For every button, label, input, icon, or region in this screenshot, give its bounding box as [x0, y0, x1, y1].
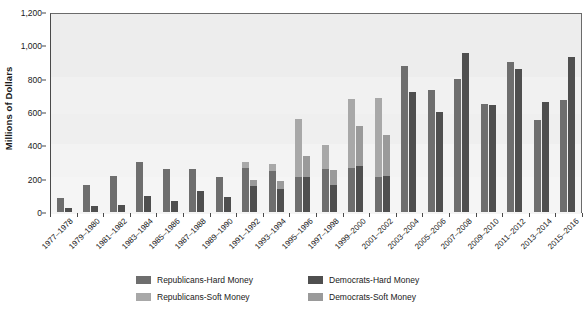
y-axis-tick-mark — [42, 46, 46, 47]
bar-group — [528, 14, 555, 212]
y-axis-tick-labels: 02004006008001,0001,200 — [16, 0, 46, 220]
bar-republicans — [534, 120, 541, 212]
bar-democrats — [250, 180, 257, 212]
bar-group — [290, 14, 317, 212]
bar-group — [343, 14, 370, 212]
bar-segment-republicans-hard-money — [83, 185, 90, 213]
bar-segment-republicans-soft-money — [375, 98, 382, 177]
bar-democrats — [277, 181, 284, 212]
bar-group — [396, 14, 423, 212]
legend-swatch — [308, 276, 323, 284]
legend-label: Republicans-Hard Money — [157, 275, 253, 285]
bar-democrats — [383, 135, 390, 212]
bar-democrats — [409, 92, 416, 212]
bar-segment-democrats-hard-money — [303, 177, 310, 212]
bar-segment-republicans-hard-money — [322, 169, 329, 212]
bar-republicans — [163, 169, 170, 212]
bar-segment-republicans-hard-money — [57, 198, 64, 212]
bar-republicans — [507, 62, 514, 212]
y-axis-tick-label: 200 — [28, 175, 42, 185]
bar-segment-democrats-hard-money — [409, 92, 416, 212]
bar-segment-republicans-soft-money — [348, 99, 355, 167]
bar-group — [237, 14, 264, 212]
bar-segment-republicans-soft-money — [269, 164, 276, 171]
bar-group — [78, 14, 105, 212]
bar-segment-republicans-hard-money — [189, 169, 196, 212]
bar-democrats — [224, 197, 231, 212]
bar-democrats — [65, 208, 72, 212]
bar-republicans — [401, 66, 408, 212]
bar-segment-republicans-hard-money — [216, 177, 223, 212]
plot-area — [50, 13, 582, 213]
bar-segment-republicans-hard-money — [163, 169, 170, 212]
bar-segment-democrats-hard-money — [91, 206, 98, 212]
bar-group — [210, 14, 237, 212]
bar-segment-republicans-hard-money — [560, 100, 567, 213]
bar-group — [263, 14, 290, 212]
bar-segment-democrats-hard-money — [65, 208, 72, 212]
bar-group — [475, 14, 502, 212]
y-axis-tick-mark — [42, 213, 46, 214]
bar-democrats — [356, 126, 363, 212]
bar-segment-democrats-hard-money — [197, 191, 204, 212]
legend-item: Democrats-Soft Money — [308, 292, 476, 302]
y-axis-tick-mark — [42, 146, 46, 147]
bar-segment-republicans-hard-money — [534, 120, 541, 212]
bar-segment-democrats-soft-money — [277, 181, 284, 189]
legend-swatch — [308, 293, 323, 301]
bar-segment-republicans-hard-money — [242, 168, 249, 213]
legend-item: Republicans-Hard Money — [136, 275, 308, 285]
bar-group — [316, 14, 343, 212]
chart-legend: Republicans-Hard MoneyDemocrats-Hard Mon… — [136, 271, 476, 305]
bar-republicans — [375, 98, 382, 212]
bar-republicans — [216, 177, 223, 212]
bar-democrats — [542, 102, 549, 212]
y-axis-title: Millions of Dollars — [2, 0, 16, 216]
bar-segment-democrats-hard-money — [489, 105, 496, 212]
bar-segment-republicans-hard-money — [348, 168, 355, 212]
bar-republicans — [348, 99, 355, 212]
bar-democrats — [515, 69, 522, 212]
bar-segment-republicans-hard-money — [401, 66, 408, 212]
x-axis-tick-mark — [582, 213, 583, 217]
bar-segment-democrats-hard-money — [118, 205, 125, 212]
bar-group — [157, 14, 184, 212]
bar-segment-republicans-hard-money — [428, 90, 435, 212]
bar-democrats — [171, 201, 178, 212]
x-axis-tick-labels: 1977–19781979–19801981–19821983–19841985… — [50, 216, 582, 266]
bar-group — [369, 14, 396, 212]
legend-label: Democrats-Hard Money — [329, 275, 419, 285]
bar-group — [449, 14, 476, 212]
bar-democrats — [568, 57, 575, 212]
legend-item: Republicans-Soft Money — [136, 292, 308, 302]
bar-republicans — [481, 104, 488, 212]
legend-swatch — [136, 293, 151, 301]
bar-segment-democrats-hard-money — [356, 166, 363, 212]
bar-republicans — [110, 176, 117, 212]
bar-democrats — [462, 53, 469, 212]
legend-item: Democrats-Hard Money — [308, 275, 476, 285]
bar-republicans — [560, 100, 567, 213]
bar-democrats — [197, 191, 204, 212]
y-axis-tick-label: 400 — [28, 141, 42, 151]
chart-container: Millions of Dollars 02004006008001,0001,… — [0, 0, 586, 314]
bar-democrats — [118, 205, 125, 212]
bar-republicans — [428, 90, 435, 212]
bar-segment-democrats-soft-money — [383, 135, 390, 176]
bar-group — [131, 14, 158, 212]
legend-swatch — [136, 276, 151, 284]
bar-group — [502, 14, 529, 212]
y-axis-tick-label: 600 — [28, 108, 42, 118]
bar-segment-democrats-soft-money — [303, 156, 310, 177]
bar-segment-democrats-hard-money — [171, 201, 178, 212]
bar-republicans — [136, 162, 143, 212]
bar-segment-democrats-hard-money — [330, 185, 337, 212]
bar-segment-republicans-hard-money — [295, 177, 302, 212]
bar-republicans — [242, 162, 249, 213]
bar-democrats — [436, 112, 443, 212]
bar-segment-republicans-hard-money — [481, 104, 488, 212]
bar-republicans — [454, 79, 461, 212]
bar-republicans — [83, 185, 90, 213]
bar-democrats — [91, 206, 98, 212]
bar-segment-republicans-hard-money — [454, 79, 461, 212]
